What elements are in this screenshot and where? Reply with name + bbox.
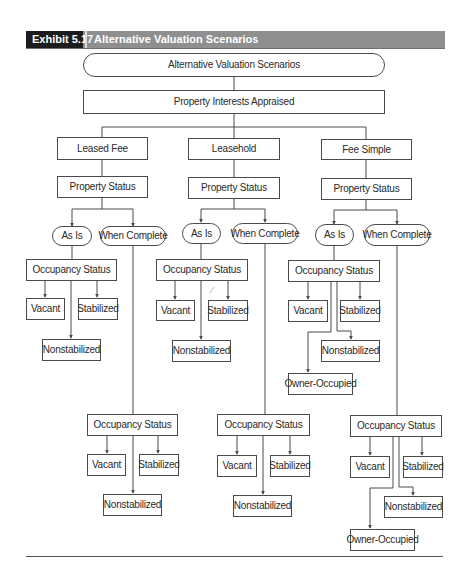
when-complete-leased-fee: When Complete: [100, 226, 166, 246]
occupancy-status-as-is-leased-fee: Occupancy Status: [26, 259, 117, 281]
outcome-owner-occupied: Owner-Occupied: [350, 529, 415, 551]
outcome-stabilized: Stabilized: [139, 454, 179, 476]
occupancy-status-when-complete-fee-simple: Occupancy Status: [350, 415, 442, 437]
outcome-stabilized: Stabilized: [78, 298, 118, 320]
outcome-vacant: Vacant: [87, 454, 126, 476]
outcome-vacant: Vacant: [350, 456, 390, 478]
outcome-nonstabilized: Nonstabilized: [233, 495, 292, 517]
outcome-owner-occupied: Owner-Occupied: [288, 373, 353, 395]
outcome-nonstabilized: Nonstabilized: [103, 494, 162, 516]
outcome-vacant: Vacant: [288, 300, 328, 322]
as-is-leased-fee: As Is: [52, 226, 92, 246]
property-status-fee-simple: Property Status: [321, 178, 412, 200]
outcome-stabilized: Stabilized: [340, 300, 380, 322]
interest-leased-fee: Leased Fee: [57, 137, 148, 160]
as-is-fee-simple: As Is: [315, 224, 354, 246]
outcome-stabilized: Stabilized: [208, 300, 248, 321]
outcome-nonstabilized: Nonstabilized: [172, 340, 231, 362]
outcome-nonstabilized: Nonstabilized: [384, 496, 443, 518]
outcome-vacant: Vacant: [156, 300, 195, 321]
outcome-nonstabilized: Nonstabilized: [321, 340, 380, 362]
occupancy-status-when-complete-leasehold: Occupancy Status: [217, 414, 310, 436]
outcome-stabilized: Stabilized: [403, 456, 443, 478]
occupancy-status-as-is-leasehold: Occupancy Status: [156, 259, 248, 281]
property-status-leased-fee: Property Status: [57, 176, 148, 198]
root-node: Alternative Valuation Scenarios: [83, 53, 385, 77]
interest-leasehold: Leasehold: [188, 138, 280, 160]
occupancy-status-as-is-fee-simple: Occupancy Status: [288, 260, 380, 282]
when-complete-leasehold: When Complete: [232, 223, 298, 244]
outcome-vacant: Vacant: [217, 455, 257, 477]
property-interests-node: Property Interests Appraised: [83, 90, 385, 114]
outcome-vacant: Vacant: [26, 298, 65, 320]
outcome-nonstabilized: Nonstabilized: [42, 339, 101, 361]
as-is-leasehold: As Is: [182, 223, 221, 244]
when-complete-fee-simple: When Complete: [364, 224, 430, 246]
occupancy-status-when-complete-leased-fee: Occupancy Status: [87, 414, 178, 436]
connector-lines: [0, 0, 469, 579]
property-status-leasehold: Property Status: [188, 177, 280, 199]
bottom-rule: [26, 556, 443, 557]
outcome-stabilized: Stabilized: [270, 455, 310, 477]
interest-fee-simple: Fee Simple: [321, 139, 412, 160]
